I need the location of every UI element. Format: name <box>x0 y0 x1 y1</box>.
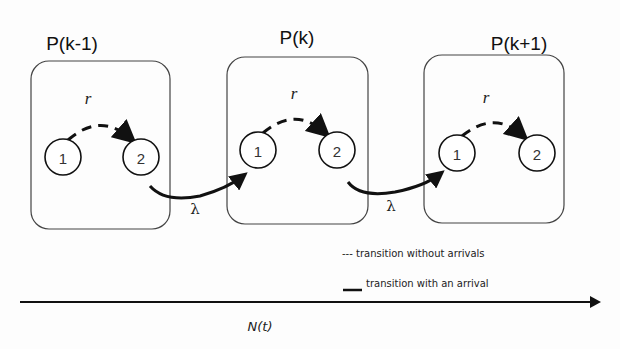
legend-solid-text: transition with an arrival <box>366 278 489 289</box>
state-group-k-plus-1: P(k+1) r 1 2 <box>424 33 564 223</box>
state-group-k: P(k) r 1 2 <box>227 27 368 224</box>
rate-label: r <box>85 89 92 108</box>
dashed-transition-arrow <box>263 119 324 133</box>
time-axis: N(t) <box>20 296 601 334</box>
legend-dashed-text: --- transition without arrivals <box>342 248 485 259</box>
lambda-label: λ <box>190 200 200 218</box>
rate-label: r <box>483 88 490 107</box>
rate-label: r <box>291 84 298 103</box>
legend: --- transition without arrivals transiti… <box>342 248 489 290</box>
node-label: 2 <box>333 143 341 160</box>
arrival-transition-1: λ <box>150 176 243 218</box>
state-title: P(k) <box>280 27 315 48</box>
dashed-transition-arrow <box>462 123 522 136</box>
arrival-transition-2: λ <box>348 174 440 215</box>
state-title: P(k-1) <box>46 33 98 54</box>
solid-transition-arrow <box>150 176 243 198</box>
solid-transition-arrow <box>348 174 440 194</box>
node-label: 1 <box>453 146 461 163</box>
node-label: 1 <box>59 150 67 167</box>
axis-arrowhead-icon <box>590 296 601 308</box>
node-label: 2 <box>137 150 145 167</box>
lambda-label: λ <box>386 197 396 215</box>
diagram-canvas: P(k-1) r 1 2 P(k) r 1 2 P(k+1) r 1 2 λ λ <box>0 0 620 349</box>
dashed-transition-arrow <box>68 125 130 140</box>
state-group-k-minus-1: P(k-1) r 1 2 <box>31 33 170 229</box>
axis-label: N(t) <box>248 319 273 334</box>
node-label: 1 <box>254 143 262 160</box>
node-label: 2 <box>533 146 541 163</box>
state-title: P(k+1) <box>491 33 548 54</box>
